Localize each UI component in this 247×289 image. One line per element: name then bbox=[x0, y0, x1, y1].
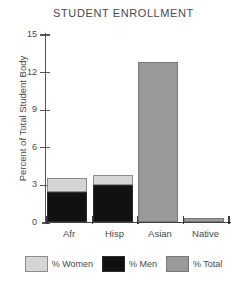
bar-hisp[interactable] bbox=[93, 175, 133, 222]
bar-native-total-segment bbox=[184, 218, 224, 222]
legend-swatch-total-icon bbox=[166, 256, 189, 272]
y-tick-label-0: 0 bbox=[7, 218, 37, 227]
legend-item-women[interactable]: % Women bbox=[25, 256, 93, 272]
bar-hisp-men-segment bbox=[93, 185, 133, 222]
y-tick-label-3: 3 bbox=[7, 180, 37, 189]
plot-area bbox=[45, 35, 230, 222]
bar-afr-men-segment bbox=[47, 192, 87, 222]
y-tick-label-9: 9 bbox=[7, 105, 37, 114]
legend-swatch-women-icon bbox=[25, 256, 48, 272]
bar-asian-total-segment bbox=[138, 62, 178, 222]
legend-label-total: % Total bbox=[193, 259, 222, 269]
y-tick-label-6: 6 bbox=[7, 143, 37, 152]
bar-afr[interactable] bbox=[47, 178, 87, 222]
legend-label-men: % Men bbox=[129, 259, 157, 269]
bar-hisp-women-segment bbox=[93, 175, 133, 185]
bar-asian[interactable] bbox=[138, 62, 178, 222]
chart-legend: % Women % Men % Total bbox=[0, 256, 247, 272]
legend-swatch-men-icon bbox=[102, 256, 125, 272]
legend-item-men[interactable]: % Men bbox=[102, 256, 157, 272]
legend-item-total[interactable]: % Total bbox=[166, 256, 222, 272]
bar-afr-women-segment bbox=[47, 178, 87, 192]
legend-label-women: % Women bbox=[52, 259, 93, 269]
bar-native[interactable] bbox=[184, 218, 224, 222]
y-tick-label-15: 15 bbox=[7, 30, 37, 39]
chart-title: STUDENT ENROLLMENT bbox=[0, 7, 247, 19]
y-axis-title: Percent of Total Student Body bbox=[17, 34, 28, 204]
x-tick-label-native: Native bbox=[178, 228, 234, 239]
y-tick-label-12: 12 bbox=[7, 68, 37, 77]
student-enrollment-chart: STUDENT ENROLLMENT Percent of Total Stud… bbox=[0, 0, 247, 289]
